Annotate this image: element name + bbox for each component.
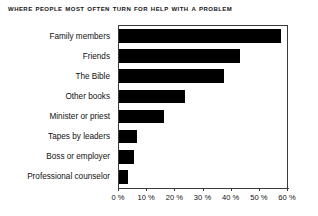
x-axis-tick-label: 50 % <box>250 193 267 202</box>
x-axis-line <box>118 188 289 189</box>
category-label-row: The Bible <box>0 66 114 86</box>
bar-row <box>119 147 288 167</box>
x-axis-tick <box>174 188 175 191</box>
bar <box>119 49 240 63</box>
x-axis-tick-label: 60 % <box>278 193 295 202</box>
category-label: Boss or employer <box>46 152 110 161</box>
x-axis-tick-label: 40 % <box>222 193 239 202</box>
bar <box>119 130 137 144</box>
x-axis-tick <box>146 188 147 191</box>
bar <box>119 110 164 124</box>
x-axis-tick-label: 10 % <box>138 193 155 202</box>
category-label-row: Family members <box>0 26 114 46</box>
x-axis-tick-label: 30 % <box>194 193 211 202</box>
category-label-row: Professional counselor <box>0 167 114 187</box>
x-axis-tick <box>203 188 204 191</box>
category-label: Professional counselor <box>27 172 110 181</box>
category-label: Minister or priest <box>49 112 110 121</box>
bar <box>119 29 281 43</box>
bar <box>119 69 224 83</box>
category-label: Friends <box>83 52 110 61</box>
x-axis-tick-label: 20 % <box>166 193 183 202</box>
x-axis-tick <box>118 188 119 191</box>
category-axis-labels: Family membersFriendsThe BibleOther book… <box>0 26 114 187</box>
category-label: Other books <box>65 92 110 101</box>
x-axis-tick-label: 0 % <box>111 193 124 202</box>
bar-row <box>119 107 288 127</box>
chart-title: Where People Most Often Turn for Help Wi… <box>8 3 310 13</box>
bar-row <box>119 86 288 106</box>
chart-container: Where People Most Often Turn for Help Wi… <box>0 0 318 216</box>
category-label-row: Minister or priest <box>0 107 114 127</box>
bar <box>119 150 134 164</box>
bar-row <box>119 26 288 46</box>
bar-series <box>119 26 288 187</box>
bar <box>119 170 128 184</box>
category-label-row: Boss or employer <box>0 147 114 167</box>
category-label: Family members <box>49 32 110 41</box>
x-axis-tick <box>231 188 232 191</box>
bar-row <box>119 66 288 86</box>
x-axis-tick <box>259 188 260 191</box>
category-label-row: Tapes by leaders <box>0 127 114 147</box>
category-label-row: Friends <box>0 46 114 66</box>
category-label-row: Other books <box>0 86 114 106</box>
bar <box>119 90 185 104</box>
category-label: Tapes by leaders <box>48 132 110 141</box>
bar-row <box>119 167 288 187</box>
bar-row <box>119 46 288 66</box>
category-label: The Bible <box>75 72 110 81</box>
x-axis-tick <box>287 188 288 191</box>
bar-row <box>119 127 288 147</box>
